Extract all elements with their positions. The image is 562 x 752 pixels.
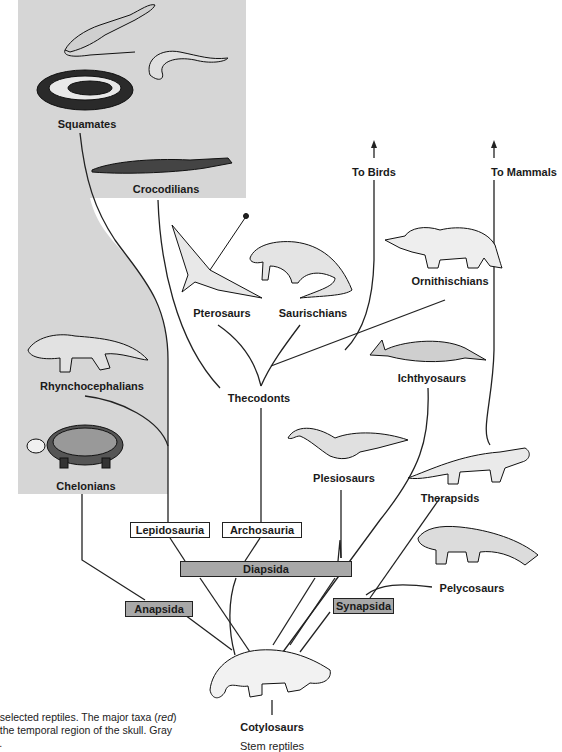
- branch-chelonians: [82, 494, 145, 600]
- box-diapsida: Diapsida: [180, 561, 352, 577]
- box-lepidosauria: Lepidosauria: [130, 522, 210, 538]
- label-plesiosaurs: Plesiosaurs: [313, 472, 375, 485]
- branch-pelycosaurs: [366, 585, 432, 595]
- label-to-mammals: To Mammals: [491, 166, 557, 179]
- ornithischian-illustration: [385, 228, 502, 268]
- label-crocodilians: Crocodilians: [133, 183, 200, 196]
- pelycosaur-illustration: [418, 526, 538, 565]
- box-archosauria: Archosauria: [222, 522, 302, 538]
- box-synapsida: Synapsida: [333, 598, 394, 614]
- snake-illustration: [37, 70, 133, 110]
- cotylosaur-illustration: [210, 650, 330, 698]
- link-archosauria-diapsida: [245, 538, 260, 561]
- ichthyosaur-illustration: [370, 340, 486, 362]
- pterosaur-illustration: [172, 214, 262, 299]
- label-therapsids: Therapsids: [421, 492, 480, 505]
- figure-caption: f selected reptiles. The major taxa (red…: [0, 711, 194, 750]
- arrowhead-birds: [371, 140, 377, 148]
- arrowhead-mammals: [491, 140, 497, 148]
- shaded-region-living-groups: [18, 0, 246, 494]
- link-anapsida-cotylosaurs: [185, 615, 232, 650]
- label-rhynchocephalians: Rhynchocephalians: [40, 380, 144, 393]
- label-thecodonts: Thecodonts: [228, 392, 290, 405]
- label-saurischians: Saurischians: [279, 307, 347, 320]
- label-chelonians: Chelonians: [56, 480, 115, 493]
- saurischian-illustration: [250, 242, 352, 298]
- label-squamates: Squamates: [58, 118, 117, 131]
- caption-line-3: s.: [0, 737, 194, 750]
- link-synapsida-cotylosaurs: [300, 612, 330, 652]
- link-diapsida-cotylosaurs-c: [273, 578, 315, 645]
- label-ichthyosaurs: Ichthyosaurs: [398, 372, 466, 385]
- link-diapsida-cotylosaurs-b: [230, 578, 236, 655]
- branch-saurischians: [261, 325, 300, 386]
- label-pterosaurs: Pterosaurs: [193, 307, 250, 320]
- link-diapsida-cotylosaurs-a: [200, 578, 250, 652]
- link-lepidosauria-diapsida: [170, 538, 185, 561]
- caption-line-1: f selected reptiles. The major taxa (red…: [0, 711, 194, 724]
- label-ornithischians: Ornithischians: [411, 275, 488, 288]
- label-cotylosaurs: Cotylosaurs: [240, 721, 304, 734]
- branch-to-birds: [345, 180, 374, 350]
- therapsid-illustration: [408, 448, 529, 484]
- branch-pterosaurs: [218, 325, 261, 386]
- label-stem-reptiles: Stem reptiles: [240, 740, 304, 752]
- plesiosaur-illustration: [288, 428, 408, 458]
- phylogeny-diagram: [0, 0, 562, 752]
- label-pelycosaurs: Pelycosaurs: [440, 582, 505, 595]
- link-plesiosaurs-diapsida: [338, 540, 341, 561]
- box-anapsida: Anapsida: [125, 601, 193, 617]
- label-to-birds: To Birds: [352, 166, 396, 179]
- caption-line-2: f the temporal region of the skull. Gray: [0, 724, 194, 737]
- branch-to-mammals: [486, 180, 494, 445]
